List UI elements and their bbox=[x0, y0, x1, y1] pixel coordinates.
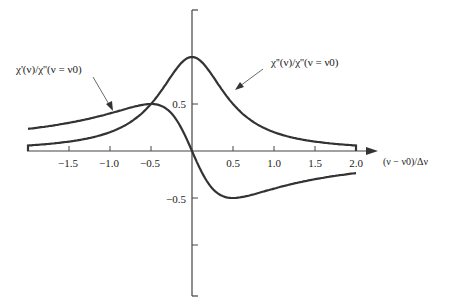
x-tick-label: 0.5 bbox=[226, 158, 240, 169]
chi-prime-label: χ'(ν)/χ''(ν = ν0) bbox=[16, 64, 82, 75]
y-tick-label: −0.5 bbox=[166, 194, 186, 205]
x-tick-label: −1.5 bbox=[58, 158, 78, 169]
y-tick-label: 0.5 bbox=[172, 99, 186, 110]
chi-double-prime-arrowhead-icon bbox=[235, 82, 244, 90]
chi-prime-arrow bbox=[93, 77, 110, 106]
x-tick-label: −1.0 bbox=[99, 158, 119, 169]
x-tick-label: −0.5 bbox=[140, 158, 160, 169]
x-tick-label: 1.5 bbox=[308, 158, 322, 169]
x-axis-arrow-icon bbox=[366, 147, 378, 155]
chi-double-prime-label: χ''(ν)/χ''(ν = ν0) bbox=[271, 57, 339, 68]
x-tick-label: 2.0 bbox=[349, 158, 363, 169]
chart-canvas bbox=[0, 0, 449, 307]
chi-double-prime-arrow bbox=[240, 69, 263, 86]
x-axis-label: (ν − ν0)/Δν bbox=[383, 157, 428, 167]
axis-ticks bbox=[69, 104, 356, 245]
chi-prime-arrowhead-icon bbox=[106, 101, 113, 111]
x-tick-label: 1.0 bbox=[267, 158, 281, 169]
